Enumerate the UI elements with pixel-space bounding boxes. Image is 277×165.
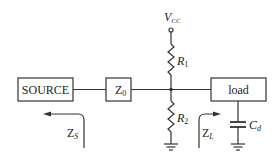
cd-label: Cd — [249, 118, 262, 133]
arrowhead-right-icon — [213, 112, 221, 117]
arrowhead-left-icon — [43, 112, 51, 117]
circuit-diagram: SOURCE Z0 load VCC R1 R2 Cd ZS ZL — [0, 0, 277, 165]
vcc-terminal — [169, 28, 173, 32]
zs-label: ZS — [67, 126, 78, 141]
ground-icon — [231, 144, 245, 150]
zs-arrow — [48, 114, 84, 148]
r1-label: R1 — [176, 54, 188, 69]
ground-icon — [164, 144, 178, 150]
r1-resistor — [168, 44, 174, 75]
r2-label: R2 — [176, 111, 188, 126]
vcc-label: VCC — [164, 10, 181, 25]
cd-capacitor — [230, 122, 246, 127]
junction-dot — [169, 88, 173, 92]
zl-label: ZL — [202, 126, 214, 141]
source-label: SOURCE — [22, 83, 69, 97]
r2-resistor — [168, 101, 174, 132]
z0-label: Z0 — [115, 83, 126, 98]
load-label: load — [228, 83, 249, 97]
